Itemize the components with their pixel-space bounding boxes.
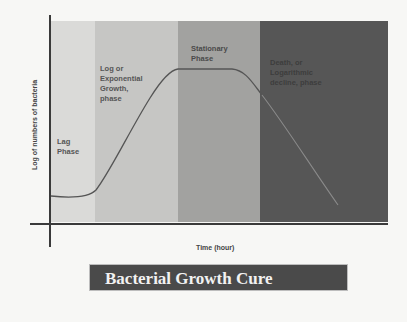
death-label-line: Death, or <box>270 58 322 68</box>
death-phase-label: Death, or Logarithmic decline, phase <box>270 58 322 88</box>
death-label-line: decline, phase <box>270 78 322 88</box>
y-axis-label: Log of numbers of bacteria <box>31 80 38 170</box>
log-label-line: Exponential <box>100 74 143 84</box>
bacterial-growth-chart: Lag Phase Log or Exponential Growth, pha… <box>0 0 407 322</box>
death-label-line: Logarithmic <box>270 68 322 78</box>
log-label-line: Growth, <box>100 84 143 94</box>
lag-phase-label: Lag Phase <box>57 137 79 157</box>
log-label-line: Log or <box>100 64 143 74</box>
stationary-label-line: Stationary <box>191 44 228 54</box>
log-phase-label: Log or Exponential Growth, phase <box>100 64 143 104</box>
lag-label-line: Phase <box>57 147 79 157</box>
stationary-label-line: Phase <box>191 54 228 64</box>
x-axis <box>30 223 388 225</box>
log-label-line: phase <box>100 94 143 104</box>
growth-curve-line <box>51 69 338 205</box>
y-axis <box>49 15 51 247</box>
chart-caption: Bacterial Growth Cure <box>89 264 348 291</box>
lag-label-line: Lag <box>57 137 79 147</box>
stationary-phase-label: Stationary Phase <box>191 44 228 64</box>
x-axis-label: Time (hour) <box>196 244 234 251</box>
